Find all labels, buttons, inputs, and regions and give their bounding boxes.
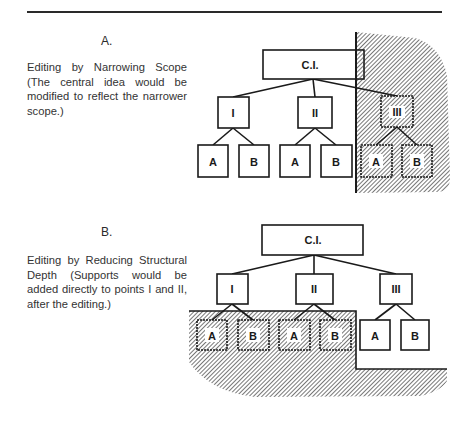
node-b-iii-b-label: B [411,330,419,342]
edge-b-iii-a [375,304,396,320]
node-a-iii-a-label: A [372,156,380,168]
node-a-iii-label: III [392,106,401,118]
edge-a-ii-b [315,128,336,145]
node-b-i-b-label: B [249,330,257,342]
edge-a-i-a [213,128,233,145]
edge-a-root-i [233,79,313,97]
diagram-a: C.I. I II III A B A B A B [198,32,450,193]
node-a-root-label: C.I. [301,59,318,71]
root-overlap-hatch [357,51,363,78]
node-b-iii-a-label: A [371,330,379,342]
node-b-root-label: C.I. [304,234,321,246]
edge-a-ii-a [295,128,315,145]
editing-diagrams: C.I. I II III A B A B A B [0,0,473,422]
node-a-ii-label: II [312,107,318,119]
node-a-ii-a-label: A [291,156,299,168]
node-a-i-a-label: A [209,156,217,168]
edge-a-root-ii [313,79,315,97]
node-a-i-label: I [231,107,234,119]
node-b-ii-label: II [311,283,317,295]
node-b-iii-label: III [391,283,400,295]
node-a-i-b-label: B [250,156,258,168]
edge-b-root-i [232,255,314,274]
edge-b-root-iii [314,255,396,274]
diagram-b: C.I. I II III A B A B A B [189,225,447,397]
node-b-ii-b-label: B [331,330,339,342]
edge-b-iii-b [396,304,415,320]
node-b-i-a-label: A [208,330,216,342]
edge-a-i-b [233,128,254,145]
node-a-iii-b-label: B [413,156,421,168]
node-b-ii-a-label: A [290,330,298,342]
node-b-i-label: I [230,283,233,295]
node-a-ii-b-label: B [332,156,340,168]
